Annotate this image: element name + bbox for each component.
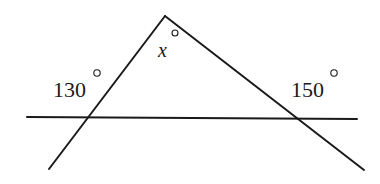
left-angle-label: 130 — [53, 77, 86, 102]
apex-degree-icon — [172, 30, 178, 36]
transversal-line — [27, 117, 357, 119]
apex-angle-label: x — [157, 39, 167, 61]
right-line — [165, 16, 364, 170]
left-degree-icon — [94, 70, 100, 76]
right-degree-icon — [331, 70, 337, 76]
angle-diagram: x 130 150 — [0, 0, 380, 184]
right-angle-label: 150 — [291, 77, 324, 102]
